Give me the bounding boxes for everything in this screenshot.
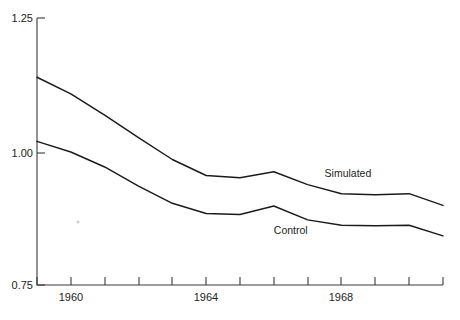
x-axis-labels: 1960 1964 1968: [59, 291, 353, 303]
scan-speck: [77, 221, 80, 224]
series-line-control: [37, 141, 443, 236]
y-tick-label-100: 1.00: [12, 147, 33, 159]
x-tick-label-1960: 1960: [59, 291, 83, 303]
axis-frame: [37, 18, 443, 285]
series-annotation-simulated: Simulated: [325, 167, 372, 179]
x-axis-ticks: [37, 277, 443, 285]
x-tick-label-1968: 1968: [329, 291, 353, 303]
y-tick-label-075: 0.75: [12, 279, 33, 291]
y-axis-ticks: [37, 18, 45, 285]
series-annotation-control: Control: [274, 224, 308, 236]
y-tick-label-125: 1.25: [12, 12, 33, 24]
x-tick-label-1964: 1964: [194, 291, 218, 303]
line-chart: 1.25 1.00 0.75 1960 1964 1968: [0, 0, 460, 320]
series-line-simulated: [37, 77, 443, 205]
y-axis-labels: 1.25 1.00 0.75: [12, 12, 33, 291]
chart-canvas: 1.25 1.00 0.75 1960 1964 1968: [0, 0, 460, 320]
